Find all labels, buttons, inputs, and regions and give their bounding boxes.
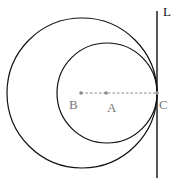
- label-A: A: [107, 100, 117, 115]
- label-L: L: [163, 4, 171, 19]
- point-B: [79, 91, 83, 95]
- geometry-diagram: L B A C: [0, 0, 178, 194]
- label-C: C: [159, 97, 168, 112]
- label-B: B: [69, 97, 78, 112]
- point-C: [155, 91, 159, 95]
- point-A: [104, 91, 108, 95]
